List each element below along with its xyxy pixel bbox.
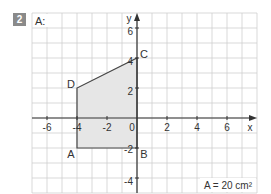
x-axis-arrow-icon	[249, 115, 257, 121]
y-tick-label: 4	[127, 56, 133, 67]
vertex-label-D: D	[67, 78, 75, 90]
part-label: A:	[35, 15, 45, 27]
y-axis-label: y	[127, 13, 132, 24]
x-tick-label: 4	[194, 122, 200, 133]
coordinate-plane: -6 -4 -2 0 2 4 6 6 4 2 -2 -4 x y A B C D…	[0, 0, 271, 194]
y-tick-label: 6	[127, 26, 133, 37]
x-tick-label: -6	[43, 122, 52, 133]
x-tick-label: 2	[164, 122, 170, 133]
y-tick-label: -2	[124, 144, 133, 155]
y-tick-label: 2	[127, 86, 133, 97]
vertex-label-B: B	[140, 148, 147, 160]
x-tick-label: 0	[129, 122, 135, 133]
vertex-label-C: C	[140, 48, 148, 60]
x-axis-label: x	[248, 122, 253, 133]
vertex-label-A: A	[67, 148, 75, 160]
area-result: A = 20 cm²	[204, 180, 253, 191]
y-tick-label: -4	[124, 176, 133, 187]
y-axis-arrow-icon	[134, 13, 140, 21]
x-tick-label: 6	[224, 122, 230, 133]
grid	[32, 13, 257, 193]
x-tick-label: -4	[73, 122, 82, 133]
x-tick-label: -2	[103, 122, 112, 133]
